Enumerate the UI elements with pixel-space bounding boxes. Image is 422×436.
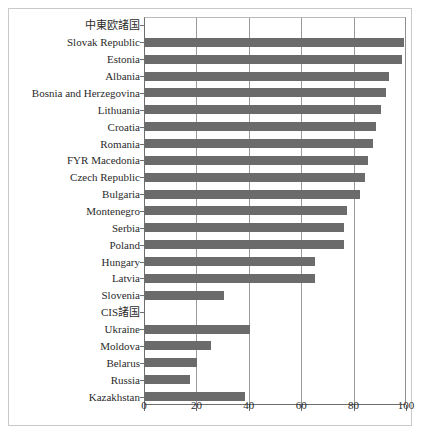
category-tick [140, 194, 144, 195]
chart-frame: 中東欧諸国Slovak RepublicEstoniaAlbaniaBosnia… [8, 8, 412, 426]
bar-row [144, 51, 406, 68]
bar-row [144, 186, 406, 203]
category-axis-labels: 中東欧諸国Slovak RepublicEstoniaAlbaniaBosnia… [9, 17, 142, 405]
category-label: Ukraine [105, 324, 140, 335]
bar[interactable] [145, 223, 344, 232]
category-label: Slovenia [102, 290, 141, 301]
bar[interactable] [145, 375, 190, 384]
bar-row [144, 219, 406, 236]
category-tick [140, 160, 144, 161]
bar-row [144, 270, 406, 287]
category-label: Montenegro [86, 206, 140, 217]
bar[interactable] [145, 206, 347, 215]
category-tick [140, 262, 144, 263]
category-label: Slovak Republic [67, 37, 140, 48]
tick-label-20: 20 [191, 399, 202, 411]
bar[interactable] [145, 139, 373, 148]
bar-row [144, 321, 406, 338]
group-header-row [144, 304, 406, 321]
category-tick [140, 346, 144, 347]
group-label: CIS諸国 [101, 307, 140, 318]
category-label: Romania [100, 138, 140, 149]
bar[interactable] [145, 190, 360, 199]
bar-row [144, 354, 406, 371]
bar-row [144, 84, 406, 101]
plot-area [144, 17, 406, 405]
bar-row [144, 34, 406, 51]
bar[interactable] [145, 257, 315, 266]
bar[interactable] [145, 358, 197, 367]
bar-row [144, 169, 406, 186]
tick-label-60: 60 [296, 399, 307, 411]
group-label: 中東欧諸国 [85, 20, 140, 31]
tick-label-80: 80 [348, 399, 359, 411]
category-tick [140, 42, 144, 43]
category-tick [140, 380, 144, 381]
bar-row [144, 388, 406, 405]
bar-row [144, 118, 406, 135]
bar-row [144, 135, 406, 152]
category-tick [140, 329, 144, 330]
bar[interactable] [145, 291, 224, 300]
bar[interactable] [145, 105, 381, 114]
bar-row [144, 236, 406, 253]
bar[interactable] [145, 122, 376, 131]
category-tick [140, 59, 144, 60]
bar[interactable] [145, 325, 250, 334]
category-label: Bulgaria [102, 189, 140, 200]
category-tick [140, 397, 144, 398]
category-label: Latvia [112, 273, 140, 284]
category-tick [140, 245, 144, 246]
category-label: Belarus [106, 357, 140, 368]
bar-row [144, 101, 406, 118]
bar-series [144, 17, 406, 405]
tick-label-40: 40 [243, 399, 254, 411]
category-label: Serbia [112, 222, 140, 233]
category-label: Albania [105, 71, 140, 82]
category-label: Estonia [107, 54, 140, 65]
category-tick [140, 25, 144, 26]
bar-row [144, 203, 406, 220]
category-tick [140, 76, 144, 77]
bar-row [144, 371, 406, 388]
category-tick [140, 93, 144, 94]
category-label: Bosnia and Herzegovina [32, 87, 140, 98]
category-label: Kazakhstan [89, 391, 140, 402]
bar[interactable] [145, 55, 402, 64]
category-label: FYR Macedonia [67, 155, 140, 166]
category-label: Lithuania [98, 104, 140, 115]
category-label: Poland [109, 239, 140, 250]
bar-row [144, 68, 406, 85]
category-tick [140, 312, 144, 313]
category-label: Russia [111, 374, 140, 385]
bar[interactable] [145, 72, 389, 81]
bar[interactable] [145, 156, 368, 165]
bar-row [144, 338, 406, 355]
category-label: Moldova [100, 340, 140, 351]
tick-label-0: 0 [141, 399, 147, 411]
category-tick [140, 278, 144, 279]
bar[interactable] [145, 38, 404, 47]
category-tick [140, 127, 144, 128]
category-tick [140, 211, 144, 212]
group-header-row [144, 17, 406, 34]
bar[interactable] [145, 274, 315, 283]
tick-label-100: 100 [398, 399, 415, 411]
bar-row [144, 152, 406, 169]
bar-row [144, 253, 406, 270]
category-tick [140, 177, 144, 178]
category-label: Croatia [108, 121, 140, 132]
bar[interactable] [145, 341, 211, 350]
category-tick [140, 295, 144, 296]
bar-row [144, 287, 406, 304]
category-tick [140, 228, 144, 229]
bar[interactable] [145, 88, 386, 97]
bar[interactable] [145, 173, 365, 182]
category-tick [140, 110, 144, 111]
category-tick [140, 144, 144, 145]
bar[interactable] [145, 240, 344, 249]
category-label: Hungary [102, 256, 141, 267]
category-tick [140, 363, 144, 364]
category-label: Czech Republic [70, 172, 140, 183]
